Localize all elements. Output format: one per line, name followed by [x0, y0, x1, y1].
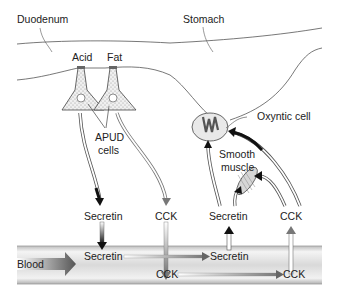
arrow-cck-to-muscle [254, 171, 285, 206]
apud-cell-acid [62, 66, 104, 110]
acid-label: Acid [72, 52, 92, 63]
smooth-muscle-label-line2: muscle [221, 162, 254, 173]
oxyntic-cell-label: Oxyntic cell [257, 111, 311, 122]
cck-release-label: CCK [155, 211, 177, 222]
secretin-cck-diagram [0, 0, 338, 296]
arrow-acid-to-secretin [80, 113, 104, 206]
secretin-blood-target-label: Secretin [210, 251, 249, 262]
stomach-wall [170, 27, 322, 120]
stomach-label: Stomach [183, 14, 224, 25]
fat-label: Fat [107, 52, 122, 63]
apud-label-line1: APUD [95, 132, 124, 143]
cck-target-label: CCK [280, 211, 302, 222]
arrow-secretin-to-muscle [234, 186, 242, 206]
arrow-fat-to-cck [117, 113, 171, 206]
apud-cell-fat [94, 66, 136, 110]
secretin-blood-label: Secretin [84, 251, 123, 262]
secretin-release-label: Secretin [84, 211, 123, 222]
duodenum-label: Duodenum [17, 14, 68, 25]
cck-blood-target-label: CCK [283, 269, 305, 280]
secretin-target-label: Secretin [209, 211, 248, 222]
cck-blood-label: CCK [156, 269, 178, 280]
blood-label: Blood [17, 259, 44, 270]
smooth-muscle-label-line1: Smooth [219, 149, 255, 160]
arrow-secretin-to-oxyntic [204, 140, 220, 206]
apud-label-line2: cells [98, 145, 119, 156]
